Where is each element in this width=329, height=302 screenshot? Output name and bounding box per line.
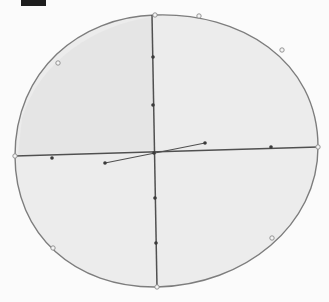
outline-handle-icon[interactable] <box>56 61 60 65</box>
outline-handle-icon[interactable] <box>155 285 159 289</box>
outline-handle-icon[interactable] <box>51 246 55 250</box>
axis-marker-dot[interactable] <box>153 196 157 200</box>
axis-marker-dot[interactable] <box>154 241 158 245</box>
outline-handle-icon[interactable] <box>316 145 320 149</box>
outline-handle-icon[interactable] <box>270 236 274 240</box>
outline-handle-icon[interactable] <box>280 48 284 52</box>
axis-marker-dot[interactable] <box>103 161 107 165</box>
axis-marker-dot[interactable] <box>269 145 273 149</box>
axis-marker-dot[interactable] <box>203 141 207 145</box>
axis-marker-dot[interactable] <box>151 55 155 59</box>
drawing-canvas[interactable] <box>0 0 329 302</box>
outline-handle-icon[interactable] <box>197 14 201 18</box>
ellipse-diagram <box>0 0 329 302</box>
black-bar <box>21 0 46 6</box>
axis-marker-dot[interactable] <box>152 151 156 155</box>
outline-handle-icon[interactable] <box>13 154 17 158</box>
axis-marker-dot[interactable] <box>50 156 54 160</box>
outline-handle-icon[interactable] <box>153 13 157 17</box>
axis-marker-dot[interactable] <box>151 103 155 107</box>
